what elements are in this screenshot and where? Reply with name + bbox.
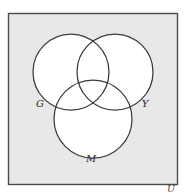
- venn-diagram-canvas: G Y M U: [0, 0, 187, 196]
- venn-diagram-figure: G Y M U: [0, 0, 187, 196]
- magenta-set-label: M: [85, 153, 97, 164]
- universe-label: U: [167, 183, 176, 194]
- green-set-label: G: [36, 98, 44, 109]
